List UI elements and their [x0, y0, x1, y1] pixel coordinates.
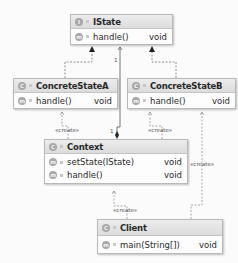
class-name: Client	[120, 223, 222, 233]
class-name: IState	[93, 17, 172, 27]
method-name: handle()	[67, 170, 164, 180]
multiplicity-label: 1	[110, 128, 114, 134]
create-label: «create»	[113, 207, 137, 213]
class-icon: C	[102, 224, 110, 232]
class-box-context[interactable]: C Context m setState(IState) void m hand…	[44, 139, 188, 184]
class-box-concretestateb[interactable]: C ConcreteStateB m handle() void	[127, 78, 236, 109]
method-icon: m	[18, 97, 26, 105]
visibility-icon	[29, 84, 32, 87]
method-name: main(String[])	[120, 240, 199, 250]
return-type: void	[164, 157, 182, 167]
interface-icon: I	[75, 18, 83, 26]
method-name: handle()	[93, 32, 149, 42]
visibility-icon	[143, 84, 146, 87]
method-row[interactable]: m handle() void	[14, 93, 117, 108]
create-label: «create»	[148, 127, 172, 133]
class-icon: C	[49, 143, 57, 151]
method-icon: m	[75, 33, 83, 41]
method-row[interactable]: m handle() void	[71, 29, 172, 44]
return-type: void	[164, 170, 182, 180]
class-header: C Client	[98, 220, 222, 236]
class-header: C ConcreteStateB	[128, 79, 235, 93]
class-box-client[interactable]: C Client m main(String[]) void	[97, 219, 223, 254]
visibility-icon	[29, 99, 32, 102]
class-icon: C	[18, 82, 26, 90]
visibility-icon	[86, 35, 89, 38]
return-type: void	[94, 96, 112, 106]
method-row[interactable]: m handle() void	[128, 93, 235, 108]
method-icon: m	[49, 158, 57, 166]
method-name: handle()	[36, 96, 94, 106]
method-icon: m	[49, 171, 57, 179]
class-header: C ConcreteStateA	[14, 79, 117, 93]
class-header: I IState	[71, 15, 172, 29]
class-icon: C	[132, 82, 140, 90]
visibility-icon	[60, 161, 63, 164]
visibility-icon	[113, 243, 116, 246]
method-row[interactable]: m main(String[]) void	[98, 236, 222, 253]
multiplicity-label: 1	[114, 57, 118, 63]
visibility-icon	[143, 99, 146, 102]
class-header: C Context	[45, 140, 187, 154]
method-name: handle()	[150, 96, 212, 106]
static-method-icon: m	[102, 241, 110, 249]
method-name: setState(IState)	[67, 157, 164, 167]
visibility-icon	[60, 174, 63, 177]
class-name: ConcreteStateB	[150, 81, 235, 91]
class-box-concretestatea[interactable]: C ConcreteStateA m handle() void	[13, 78, 118, 109]
method-icon: m	[132, 97, 140, 105]
return-type: void	[199, 240, 217, 250]
class-box-istate[interactable]: I IState m handle() void	[70, 14, 173, 45]
class-name: ConcreteStateA	[36, 81, 117, 91]
method-row[interactable]: m handle() void	[45, 167, 187, 183]
return-type: void	[149, 32, 167, 42]
visibility-icon	[86, 20, 89, 23]
create-label: «create»	[190, 161, 214, 167]
visibility-icon	[113, 226, 116, 229]
create-label: «create»	[55, 127, 79, 133]
visibility-icon	[60, 145, 63, 148]
class-name: Context	[67, 142, 187, 152]
return-type: void	[212, 96, 230, 106]
